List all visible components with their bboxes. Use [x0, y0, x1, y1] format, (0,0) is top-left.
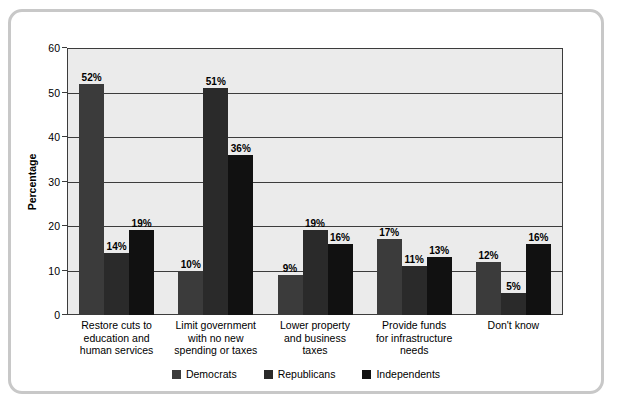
legend-swatch-icon	[264, 370, 273, 379]
y-axis-tick-label: 50	[48, 87, 60, 99]
category-label-line: Lower property	[265, 319, 364, 332]
bar-fill	[228, 155, 253, 315]
legend-label: Independents	[376, 368, 440, 380]
bar[interactable]: 10%	[178, 271, 203, 316]
legend-item[interactable]: Independents	[362, 368, 440, 380]
bar-value-label: 19%	[305, 218, 325, 229]
bar-group: 10%51%36%	[178, 48, 253, 315]
y-axis-tick-mark	[62, 136, 67, 137]
category-label-line: needs	[365, 344, 464, 357]
y-axis-tick-mark	[62, 92, 67, 93]
category-label-line: Restore cuts to	[67, 319, 166, 332]
y-axis-tick-mark	[62, 314, 67, 315]
bar-fill	[79, 84, 104, 315]
category-label-line: education and	[67, 332, 166, 345]
y-axis-tick-label: 10	[48, 265, 60, 277]
bar-fill	[427, 257, 452, 315]
category-label-line: human services	[67, 344, 166, 357]
bar-fill	[526, 244, 551, 315]
bar-value-label: 19%	[132, 218, 152, 229]
y-axis-title-label: Percentage	[26, 153, 38, 210]
bar-value-label: 14%	[107, 241, 127, 252]
chart-legend: DemocratsRepublicansIndependents	[11, 368, 601, 380]
bar[interactable]: 19%	[303, 230, 328, 315]
y-axis-tick-mark	[62, 225, 67, 226]
bar[interactable]: 11%	[402, 266, 427, 315]
bar-group: 17%11%13%	[377, 48, 452, 315]
bar[interactable]: 17%	[377, 239, 402, 315]
bar-value-label: 12%	[478, 250, 498, 261]
y-axis-tick-label: 40	[48, 131, 60, 143]
legend-item[interactable]: Democrats	[172, 368, 237, 380]
category-label-line: for infrastructure	[365, 332, 464, 345]
chart-figure-frame: Percentage 0102030405060 52%14%19%10%51%…	[8, 9, 604, 394]
category-label-line: Don't know	[464, 319, 563, 332]
x-axis-category-label: Limit governmentwith no newspending or t…	[166, 319, 265, 357]
bar[interactable]: 14%	[104, 253, 129, 315]
y-axis-tick-label: 30	[48, 176, 60, 188]
bar-value-label: 36%	[231, 143, 251, 154]
y-axis-tick-mark	[62, 270, 67, 271]
bar-value-label: 16%	[330, 232, 350, 243]
legend-item[interactable]: Republicans	[264, 368, 336, 380]
bar-fill	[178, 271, 203, 316]
y-axis-tick-label: 0	[54, 309, 60, 321]
bar-fill	[104, 253, 129, 315]
x-axis-category-label: Restore cuts toeducation andhuman servic…	[67, 319, 166, 357]
bar-value-label: 5%	[506, 281, 520, 292]
bar-group: 9%19%16%	[278, 48, 353, 315]
bar[interactable]: 16%	[328, 244, 353, 315]
y-axis-tick-label: 20	[48, 220, 60, 232]
bar-fill	[328, 244, 353, 315]
bar[interactable]: 51%	[203, 88, 228, 315]
y-axis-tick-mark	[62, 181, 67, 182]
bar-fill	[203, 88, 228, 315]
bar-fill	[501, 293, 526, 315]
bar[interactable]: 36%	[228, 155, 253, 315]
x-axis-category-label: Provide fundsfor infrastructureneeds	[365, 319, 464, 357]
bar-group: 12%5%16%	[476, 48, 551, 315]
bar-fill	[129, 230, 154, 315]
bar[interactable]: 52%	[79, 84, 104, 315]
x-axis-category-labels: Restore cuts toeducation andhuman servic…	[67, 319, 563, 369]
category-label-line: spending or taxes	[166, 344, 265, 357]
x-axis-category-label: Don't know	[464, 319, 563, 332]
bar-value-label: 13%	[429, 245, 449, 256]
legend-label: Republicans	[278, 368, 336, 380]
legend-swatch-icon	[172, 370, 181, 379]
bar-fill	[278, 275, 303, 315]
bar-value-label: 11%	[404, 254, 423, 265]
bar[interactable]: 9%	[278, 275, 303, 315]
bar-value-label: 16%	[528, 232, 548, 243]
bar-fill	[377, 239, 402, 315]
bar-value-label: 10%	[181, 259, 201, 270]
bar-value-label: 17%	[379, 227, 399, 238]
bar[interactable]: 12%	[476, 262, 501, 315]
y-axis-tick-mark	[62, 47, 67, 48]
bar[interactable]: 16%	[526, 244, 551, 315]
legend-swatch-icon	[362, 370, 371, 379]
bar-value-label: 51%	[206, 76, 226, 87]
bar[interactable]: 13%	[427, 257, 452, 315]
category-label-line: with no new	[166, 332, 265, 345]
bar-value-label: 52%	[82, 72, 102, 83]
y-axis-tick-label: 60	[48, 42, 60, 54]
bar-group: 52%14%19%	[79, 48, 154, 315]
bar-value-label: 9%	[283, 263, 297, 274]
chart-plot-area: 0102030405060 52%14%19%10%51%36%9%19%16%…	[67, 48, 563, 315]
y-axis-title: Percentage	[24, 48, 40, 315]
bar-fill	[303, 230, 328, 315]
category-label-line: and business	[265, 332, 364, 345]
category-label-line: Limit government	[166, 319, 265, 332]
legend-label: Democrats	[186, 368, 237, 380]
category-label-line: Provide funds	[365, 319, 464, 332]
bar-fill	[476, 262, 501, 315]
bar[interactable]: 19%	[129, 230, 154, 315]
bar-fill	[402, 266, 427, 315]
category-label-line: taxes	[265, 344, 364, 357]
bar[interactable]: 5%	[501, 293, 526, 315]
x-axis-category-label: Lower propertyand businesstaxes	[265, 319, 364, 357]
